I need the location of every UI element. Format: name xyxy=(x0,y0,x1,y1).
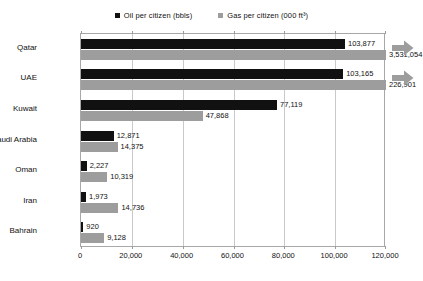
axis-tick xyxy=(385,31,386,34)
bar-value-label: 920 xyxy=(83,222,99,232)
axis-tick xyxy=(132,31,133,34)
bar-gas xyxy=(81,80,386,90)
bar-value-label: 12,871 xyxy=(114,131,140,141)
axis-tick xyxy=(385,246,386,249)
bar-group: 1,97314,736 xyxy=(81,192,384,213)
axis-tick xyxy=(234,31,235,34)
bar-value-label: 14,736 xyxy=(118,203,144,213)
x-tick-label: 20,000 xyxy=(119,250,142,261)
chart-legend: Oil per citizen (bbls) Gas per citizen (… xyxy=(0,11,423,20)
bar-value-label: 47,868 xyxy=(203,111,229,121)
x-tick-label: 120,000 xyxy=(371,250,398,261)
legend-square-oil-icon xyxy=(115,13,120,18)
x-tick-label: 40,000 xyxy=(170,250,193,261)
bar-oil xyxy=(81,39,345,49)
bar-gas xyxy=(81,172,107,182)
axis-tick xyxy=(183,246,184,249)
bar-value-label: 9,128 xyxy=(104,233,126,243)
category-label-qatar: Qatar xyxy=(0,43,37,53)
category-label-oman: Oman xyxy=(0,165,37,175)
right-arrow-icon xyxy=(392,70,414,86)
bar-value-label: 103,877 xyxy=(345,39,375,49)
x-tick-label: 0 xyxy=(78,250,82,261)
axis-tick xyxy=(335,31,336,34)
axis-tick xyxy=(284,246,285,249)
bar-value-label: 103,165 xyxy=(343,69,373,79)
category-label-iran: Iran xyxy=(0,196,37,206)
bar-gas xyxy=(81,142,118,152)
axis-tick xyxy=(81,31,82,34)
bar-oil xyxy=(81,69,343,79)
x-tick-label: 60,000 xyxy=(221,250,244,261)
bar-oil xyxy=(81,131,114,141)
bar-gas xyxy=(81,233,104,243)
bar-group: 103,8773,531,054 xyxy=(81,39,384,60)
bar-gas xyxy=(81,50,386,60)
axis-tick xyxy=(284,31,285,34)
bar-value-label: 77,119 xyxy=(277,100,302,110)
axis-tick xyxy=(81,246,82,249)
bar-value-label: 14,375 xyxy=(118,142,144,152)
bar-value-label: 2,227 xyxy=(87,161,109,171)
x-axis-tick-labels: 020,00040,00060,00080,000100,000120,000 xyxy=(80,250,385,264)
x-tick-label: 80,000 xyxy=(272,250,295,261)
legend-label-gas: Gas per citizen (000 ft³) xyxy=(227,11,308,20)
plot-area: 103,8773,531,054103,165226,90177,11947,8… xyxy=(80,33,385,247)
bar-group: 2,22710,319 xyxy=(81,161,384,182)
axis-tick xyxy=(234,246,235,249)
category-label-uae: UAE xyxy=(0,73,37,83)
bar-gas xyxy=(81,203,118,213)
bar-value-label: 1,973 xyxy=(86,192,108,202)
legend-square-gas-icon xyxy=(218,13,223,18)
bar-group: 77,11947,868 xyxy=(81,100,384,121)
axis-tick xyxy=(335,246,336,249)
category-label-saudi-arabia: Saudi Arabia xyxy=(0,135,37,145)
bar-oil xyxy=(81,100,277,110)
right-arrow-icon xyxy=(392,40,414,56)
bar-chart: Oil per citizen (bbls) Gas per citizen (… xyxy=(0,0,423,281)
axis-tick xyxy=(132,246,133,249)
x-tick-label: 100,000 xyxy=(321,250,348,261)
bar-group: 12,87114,375 xyxy=(81,131,384,152)
axis-tick xyxy=(183,31,184,34)
bar-group: 103,165226,901 xyxy=(81,69,384,90)
bar-value-label: 10,319 xyxy=(107,172,133,182)
bar-group: 9209,128 xyxy=(81,222,384,243)
legend-item-gas: Gas per citizen (000 ft³) xyxy=(218,11,308,20)
legend-item-oil: Oil per citizen (bbls) xyxy=(115,11,192,20)
legend-label-oil: Oil per citizen (bbls) xyxy=(124,11,192,20)
category-label-bahrain: Bahrain xyxy=(0,226,37,236)
category-label-kuwait: Kuwait xyxy=(0,104,37,114)
bar-gas xyxy=(81,111,203,121)
